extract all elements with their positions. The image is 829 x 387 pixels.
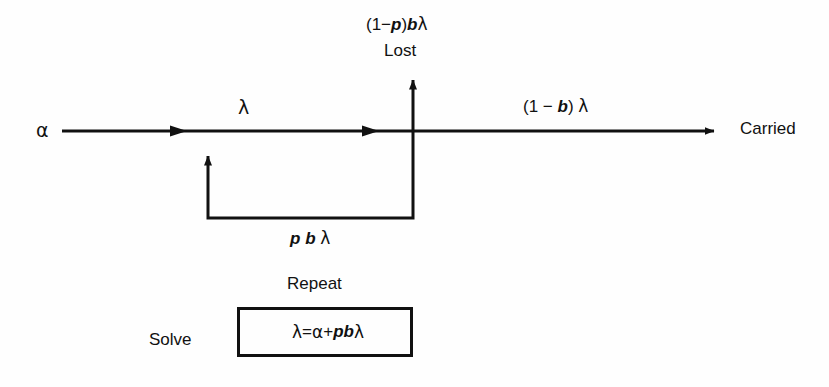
label-lost: Lost	[384, 42, 416, 59]
label-feedback-rate: p b λ	[290, 230, 330, 247]
feedback-loop-line	[208, 131, 413, 218]
label-lost-rate: (1−p)bλ	[366, 16, 428, 33]
label-repeat: Repeat	[287, 275, 342, 292]
label-lambda-main: λ	[238, 98, 249, 117]
junction-arrowhead-icon	[362, 126, 379, 137]
label-solve: Solve	[149, 331, 192, 348]
equation-box: λ = α + pbλ	[237, 307, 413, 357]
input-arrowhead-icon	[170, 126, 187, 137]
diagram-canvas: α λ (1−p)bλ Lost (1 − b) λ Carried p b λ…	[0, 0, 829, 387]
label-equation: λ = α + pbλ	[240, 310, 416, 354]
label-carried-rate: (1 − b) λ	[523, 98, 588, 115]
label-alpha-source: α	[36, 121, 49, 140]
label-carried: Carried	[740, 120, 796, 137]
